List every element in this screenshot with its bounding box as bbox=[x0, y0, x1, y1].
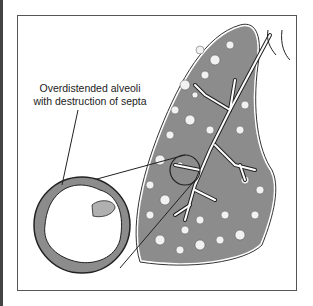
label-line-1: Overdistended alveoli bbox=[30, 82, 150, 95]
label-line-2: with destruction of septa bbox=[30, 95, 150, 108]
annotation-label: Overdistended alveoli with destruction o… bbox=[30, 82, 150, 108]
lung-illustration bbox=[0, 0, 313, 306]
